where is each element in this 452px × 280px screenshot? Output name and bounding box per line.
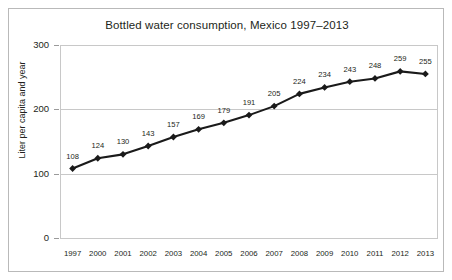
data-point-marker xyxy=(422,71,429,78)
data-point-marker xyxy=(145,143,152,150)
y-axis-tick-label: 200 xyxy=(17,104,49,114)
x-axis-tick-label: 2013 xyxy=(408,249,442,259)
data-point-marker xyxy=(195,126,202,133)
y-axis-tick-mark xyxy=(54,174,59,175)
data-point-marker xyxy=(220,119,227,126)
y-axis-tick-label: 300 xyxy=(17,40,49,50)
data-point-label: 179 xyxy=(209,106,239,115)
chart-title: Bottled water consumption, Mexico 1997–2… xyxy=(9,19,445,31)
chart-figure: Bottled water consumption, Mexico 1997–2… xyxy=(8,8,444,272)
data-point-marker xyxy=(94,155,101,162)
y-axis-tick-mark xyxy=(54,109,59,110)
data-point-marker xyxy=(321,84,328,91)
data-point-marker xyxy=(246,112,253,119)
data-point-marker xyxy=(346,78,353,85)
y-axis-tick-label: 0 xyxy=(17,233,49,243)
data-point-label: 157 xyxy=(158,120,188,129)
data-point-marker xyxy=(372,75,379,82)
data-point-label: 143 xyxy=(133,129,163,138)
data-point-marker xyxy=(69,165,76,172)
y-axis-tick-mark xyxy=(54,238,59,239)
data-point-label: 205 xyxy=(259,89,289,98)
data-point-marker xyxy=(120,151,127,158)
y-axis-tick-mark xyxy=(54,45,59,46)
data-point-label: 255 xyxy=(410,57,440,66)
data-point-marker xyxy=(296,90,303,97)
plot-area: 1081241301431571691791912052242342432482… xyxy=(60,45,438,238)
data-point-marker xyxy=(170,134,177,141)
data-point-marker xyxy=(397,68,404,75)
data-point-label: 191 xyxy=(234,98,264,107)
data-point-label: 130 xyxy=(108,137,138,146)
data-point-marker xyxy=(271,103,278,110)
y-axis-tick-label: 100 xyxy=(17,169,49,179)
data-point-label: 108 xyxy=(58,152,88,161)
